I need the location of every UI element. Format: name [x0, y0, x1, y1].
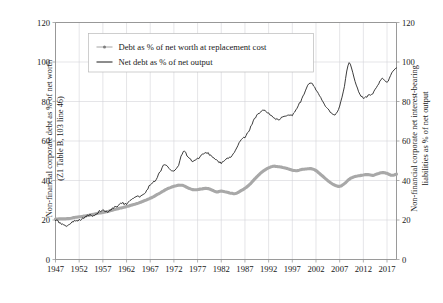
legend-item-label: Net debt as % of net output: [119, 57, 214, 67]
svg-text:1947: 1947: [47, 264, 65, 274]
svg-text:1967: 1967: [142, 264, 160, 274]
svg-text:0: 0: [402, 255, 406, 265]
left-axis-title-line2: (Z1 Table B, 103 line 46): [55, 24, 66, 254]
svg-text:1952: 1952: [71, 264, 88, 274]
svg-text:2012: 2012: [355, 264, 372, 274]
right-axis-title: Non-financial corporate net interest-bea…: [410, 24, 431, 254]
svg-text:2002: 2002: [307, 264, 324, 274]
right-axis-title-line2: liabilities as % of net output: [420, 24, 431, 254]
series-net-debt-pct-net-output: [56, 63, 397, 227]
legend-item-0[interactable]: Debt as % of net worth at replacement co…: [97, 42, 268, 52]
svg-text:1957: 1957: [94, 264, 112, 274]
svg-text:1987: 1987: [236, 264, 254, 274]
x-axis-ticks: 1947195219571962196719721977198219871992…: [47, 260, 396, 275]
svg-text:1977: 1977: [189, 264, 207, 274]
svg-text:2017: 2017: [378, 264, 396, 274]
svg-text:1982: 1982: [213, 264, 230, 274]
chart-plot-area: 020406080100120 020406080100120 19471952…: [0, 0, 443, 303]
data-series-group: [56, 63, 397, 227]
left-axis-title-line1: Non-financial corporate debt as % of net…: [45, 24, 56, 254]
svg-text:2007: 2007: [331, 264, 349, 274]
legend-marker-dot: [103, 46, 106, 49]
chart-figure: Non-financial corporate debt as % of net…: [0, 0, 443, 303]
svg-text:1997: 1997: [284, 264, 302, 274]
svg-text:1972: 1972: [165, 264, 182, 274]
chart-legend[interactable]: Debt as % of net worth at replacement co…: [89, 34, 314, 73]
right-axis-title-line1: Non-financial corporate net interest-bea…: [410, 24, 421, 254]
svg-text:1962: 1962: [118, 264, 135, 274]
svg-text:1992: 1992: [260, 264, 277, 274]
legend-item-label: Debt as % of net worth at replacement co…: [119, 42, 268, 52]
left-axis-title: Non-financial corporate debt as % of net…: [45, 24, 66, 254]
